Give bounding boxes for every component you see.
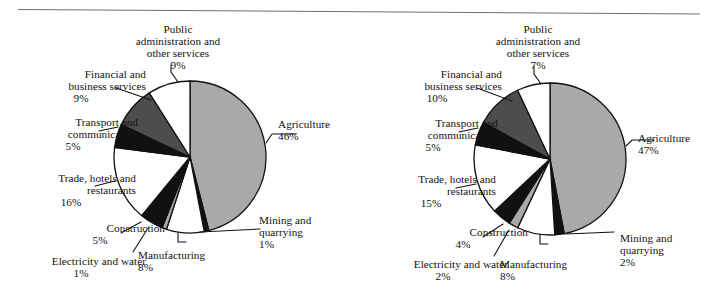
pie-label-line: communication [368, 129, 498, 141]
pie-label-line: communication [8, 128, 138, 140]
pie-label-line: Trade, hotels and [366, 173, 496, 185]
pie-label-line: other services [110, 47, 246, 59]
pie-label-line: Public [110, 23, 246, 35]
pie-label-line: Transport and [368, 117, 498, 129]
pie-label: Manufacturing8% [138, 249, 205, 273]
pie-label: Financial andbusiness services10% [372, 68, 502, 104]
pie-label-percent: 10% [372, 92, 502, 104]
pie-label: Trade, hotels andrestaurants15% [366, 173, 496, 209]
pie-label-line: Mining and [620, 232, 672, 244]
pie-label: Agriculture47% [638, 132, 690, 156]
pie-label: Manufacturing8% [500, 258, 567, 282]
pie-label: Publicadministration andother services7% [470, 23, 606, 71]
pie-label-line: Construction [398, 226, 528, 238]
pie-label-line: Mining and [259, 214, 311, 226]
pie-label-percent: 1% [259, 238, 311, 250]
pie-label-percent: 2% [620, 256, 672, 268]
pie-label-line: Electricity and water [16, 255, 146, 267]
pie-label-percent: 5% [35, 234, 165, 246]
pie-label-line: administration and [110, 35, 246, 47]
pie-label-percent: 46% [278, 130, 330, 142]
pie-label: Transport andcommunication5% [368, 117, 498, 153]
pie-panel-right: Agriculture47%Mining andquarrying2%Manuf… [356, 0, 712, 298]
pie-label-line: Manufacturing [138, 249, 205, 261]
pie-label-line: Agriculture [638, 132, 690, 144]
pie-label: Construction4% [398, 226, 528, 250]
pie-label: Construction5% [35, 222, 165, 246]
pie-label-line: restaurants [366, 185, 496, 197]
pie-label-line: Construction [35, 222, 165, 234]
pie-label: Mining andquarrying1% [259, 214, 311, 250]
pie-panel-left: Agriculture46%Mining andquarrying1%Manuf… [0, 0, 356, 298]
pie-label-line: administration and [470, 35, 606, 47]
pie-label-line: restaurants [6, 184, 136, 196]
pie-label-line: Public [470, 23, 606, 35]
pie-label: Mining andquarrying2% [620, 232, 672, 268]
pie-label-line: quarrying [620, 244, 672, 256]
pie-label-line: Trade, hotels and [6, 172, 136, 184]
pie-label-percent: 2% [378, 270, 508, 282]
pie-label: Trade, hotels andrestaurants16% [6, 172, 136, 208]
pie-label: Agriculture46% [278, 118, 330, 142]
pie-label-percent: 9% [110, 59, 246, 71]
pie-label: Transport andcommunication5% [8, 116, 138, 152]
pie-label-line: quarrying [259, 226, 311, 238]
pie-label-line: business services [16, 80, 146, 92]
pie-label-percent: 1% [16, 267, 146, 279]
pie-label-percent: 8% [138, 261, 205, 273]
pie-label-percent: 15% [366, 197, 496, 209]
pie-label-percent: 47% [638, 144, 690, 156]
pie-label-percent: 7% [470, 59, 606, 71]
label-leader-line [566, 232, 614, 234]
figure-canvas: Agriculture46%Mining andquarrying1%Manuf… [0, 0, 712, 298]
pie-label-line: Manufacturing [500, 258, 567, 270]
pie-label: Publicadministration andother services9% [110, 23, 246, 71]
pie-label-line: Agriculture [278, 118, 330, 130]
pie-label-percent: 5% [8, 140, 138, 152]
pie-label-line: Electricity and water [378, 258, 508, 270]
pie-label-percent: 16% [6, 196, 136, 208]
label-leader-line [178, 233, 186, 242]
pie-label-percent: 8% [500, 270, 567, 282]
pie-label: Financial andbusiness services9% [16, 68, 146, 104]
pie-label: Electricity and water1% [16, 255, 146, 279]
pie-label-percent: 4% [398, 238, 528, 250]
pie-label-line: business services [372, 80, 502, 92]
pie-label-percent: 9% [16, 92, 146, 104]
pie-label-line: other services [470, 47, 606, 59]
pie-slice[interactable] [550, 83, 626, 234]
pie-label-percent: 5% [368, 141, 498, 153]
pie-label: Electricity and water2% [378, 258, 508, 282]
pie-label-line: Transport and [8, 116, 138, 128]
